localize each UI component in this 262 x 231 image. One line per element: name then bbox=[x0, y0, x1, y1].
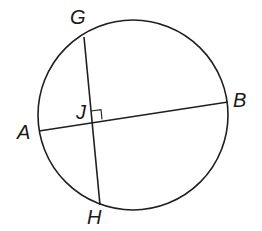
label-a: A bbox=[16, 121, 30, 143]
circle bbox=[38, 20, 228, 210]
chord-ab bbox=[39, 102, 228, 131]
chord-gh bbox=[84, 37, 100, 205]
label-j: J bbox=[75, 101, 87, 123]
circle-diagram: G B A H J bbox=[0, 0, 262, 231]
label-b: B bbox=[233, 89, 246, 111]
right-angle-marker bbox=[91, 110, 102, 120]
label-g: G bbox=[70, 6, 86, 28]
label-h: H bbox=[87, 206, 102, 228]
